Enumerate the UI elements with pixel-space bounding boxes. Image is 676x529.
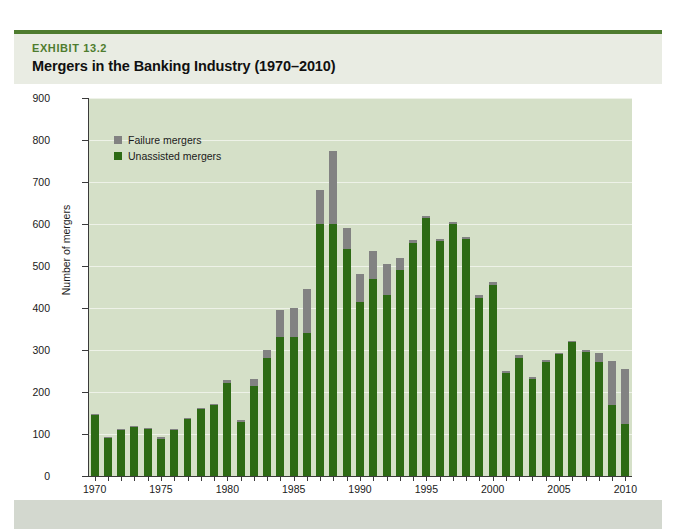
y-tick-mark	[82, 140, 88, 141]
x-tick-mark	[201, 476, 202, 481]
bar-segment-unassisted	[529, 379, 537, 476]
bar-group[interactable]	[515, 98, 523, 476]
exhibit-number: EXHIBIT 13.2	[32, 41, 662, 55]
bar-group[interactable]	[542, 98, 550, 476]
bar-segment-unassisted	[383, 295, 391, 476]
bar-group[interactable]	[529, 98, 537, 476]
bar-segment-failure	[223, 380, 231, 383]
bar-segment-failure	[489, 282, 497, 285]
bar-group[interactable]	[343, 98, 351, 476]
bar-group[interactable]	[303, 98, 311, 476]
x-tick-label: 1995	[402, 483, 450, 495]
footer-band	[14, 500, 662, 529]
legend-item: Failure mergers	[114, 134, 221, 146]
bar-group[interactable]	[104, 98, 112, 476]
x-tick-mark	[347, 476, 348, 481]
bar-segment-failure	[542, 360, 550, 362]
bar-segment-failure	[568, 341, 576, 343]
bar-segment-unassisted	[409, 243, 417, 476]
bar-group[interactable]	[555, 98, 563, 476]
bar-group[interactable]	[316, 98, 324, 476]
bar-group[interactable]	[369, 98, 377, 476]
bar-segment-unassisted	[197, 409, 205, 476]
bar-segment-unassisted	[250, 386, 258, 476]
x-tick-mark	[280, 476, 281, 481]
bar-segment-unassisted	[290, 337, 298, 476]
x-tick-mark	[161, 476, 162, 481]
bar-group[interactable]	[396, 98, 404, 476]
legend-swatch-icon	[114, 152, 122, 160]
x-tick-mark	[307, 476, 308, 481]
bar-segment-failure	[250, 379, 258, 385]
bar-group[interactable]	[250, 98, 258, 476]
bar-group[interactable]	[475, 98, 483, 476]
y-tick-label: 200	[10, 386, 50, 398]
bar-group[interactable]	[263, 98, 271, 476]
bar-segment-unassisted	[422, 218, 430, 476]
bar-group[interactable]	[329, 98, 337, 476]
bar-group[interactable]	[409, 98, 417, 476]
bar-segment-failure	[422, 216, 430, 218]
x-tick-mark	[360, 476, 361, 481]
bar-group[interactable]	[595, 98, 603, 476]
bar-group[interactable]	[422, 98, 430, 476]
bar-group[interactable]	[237, 98, 245, 476]
bar-group[interactable]	[582, 98, 590, 476]
bar-group[interactable]	[621, 98, 629, 476]
x-tick-mark	[387, 476, 388, 481]
x-tick-mark	[625, 476, 626, 481]
x-tick-mark	[506, 476, 507, 481]
bar-group[interactable]	[91, 98, 99, 476]
bar-group[interactable]	[223, 98, 231, 476]
bar-segment-unassisted	[621, 424, 629, 477]
bar-segment-failure	[91, 414, 99, 415]
x-tick-mark	[148, 476, 149, 481]
bar-group[interactable]	[462, 98, 470, 476]
bar-segment-failure	[502, 371, 510, 373]
bar-segment-failure	[396, 258, 404, 271]
bar-segment-failure	[621, 369, 629, 424]
bar-segment-unassisted	[582, 352, 590, 476]
bar-segment-failure	[356, 274, 364, 301]
bar-group[interactable]	[489, 98, 497, 476]
bar-group[interactable]	[502, 98, 510, 476]
bar-segment-unassisted	[263, 358, 271, 476]
x-tick-mark	[519, 476, 520, 481]
x-tick-mark	[466, 476, 467, 481]
x-tick-mark	[559, 476, 560, 481]
x-tick-mark	[241, 476, 242, 481]
x-tick-label: 1975	[137, 483, 185, 495]
x-tick-mark	[453, 476, 454, 481]
bar-group[interactable]	[568, 98, 576, 476]
bar-segment-unassisted	[608, 405, 616, 476]
bar-segment-failure	[104, 437, 112, 438]
bar-segment-unassisted	[396, 270, 404, 476]
x-tick-mark	[479, 476, 480, 481]
bar-segment-unassisted	[170, 430, 178, 476]
plot-area: Failure mergersUnassisted mergers	[88, 98, 632, 476]
bar-segment-unassisted	[356, 302, 364, 476]
bar-group[interactable]	[290, 98, 298, 476]
x-tick-label: 1980	[203, 483, 251, 495]
bar-segment-failure	[263, 350, 271, 358]
bar-group[interactable]	[449, 98, 457, 476]
bar-segment-failure	[462, 237, 470, 239]
bar-group[interactable]	[276, 98, 284, 476]
x-tick-mark	[400, 476, 401, 481]
bar-group[interactable]	[383, 98, 391, 476]
bar-group[interactable]	[608, 98, 616, 476]
legend-swatch-icon	[114, 136, 122, 144]
bar-group[interactable]	[436, 98, 444, 476]
x-tick-mark	[214, 476, 215, 481]
chart-legend: Failure mergersUnassisted mergers	[114, 134, 221, 166]
x-tick-mark	[188, 476, 189, 481]
bar-segment-unassisted	[316, 224, 324, 476]
legend-item: Unassisted mergers	[114, 150, 221, 162]
exhibit-title: Mergers in the Banking Industry (1970–20…	[32, 57, 662, 76]
bar-group[interactable]	[356, 98, 364, 476]
bar-segment-unassisted	[157, 439, 165, 476]
bar-segment-failure	[197, 408, 205, 409]
bar-segment-unassisted	[489, 285, 497, 476]
x-tick-mark	[612, 476, 613, 481]
bar-segment-unassisted	[449, 224, 457, 476]
